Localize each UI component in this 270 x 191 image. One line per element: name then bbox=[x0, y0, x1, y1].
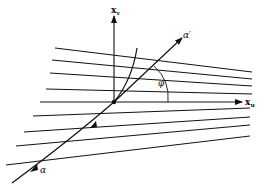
family-line bbox=[52, 60, 252, 79]
family-line bbox=[46, 89, 252, 94]
horizontal-axis-label: xu bbox=[245, 97, 255, 108]
family-of-lines bbox=[6, 48, 252, 165]
family-line bbox=[50, 73, 252, 86]
manifold-diagram: xv xu φ α′ α bbox=[0, 0, 270, 191]
vertical-axis-label: xv bbox=[111, 5, 120, 16]
curve-end-label: α′ bbox=[183, 30, 191, 40]
angle-label: φ bbox=[158, 78, 165, 88]
origin-point bbox=[112, 100, 116, 104]
family-line bbox=[33, 108, 250, 116]
curve-alpha bbox=[12, 48, 137, 183]
curve-start-label: α bbox=[40, 165, 46, 175]
family-line bbox=[55, 48, 252, 72]
family-line bbox=[24, 117, 250, 132]
family-line bbox=[16, 125, 250, 146]
